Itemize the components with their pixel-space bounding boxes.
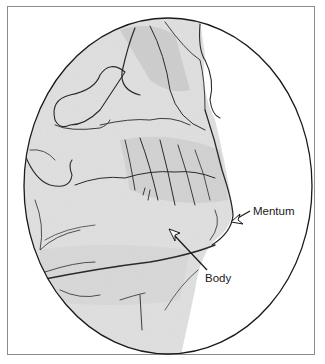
label-mentum: Mentum [253, 205, 295, 217]
anatomical-illustration [0, 0, 325, 364]
mentum-arrow [231, 211, 250, 224]
label-body: Body [205, 272, 231, 284]
face-region [20, 17, 232, 360]
